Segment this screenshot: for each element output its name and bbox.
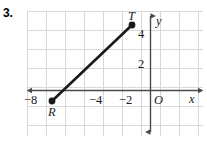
point-R [49, 98, 56, 105]
y-tick-label-2: 2 [138, 58, 144, 71]
y-axis-label: y [156, 15, 162, 28]
x-axis-label: x [189, 93, 195, 106]
x-tick-label-neg2: −2 [119, 94, 132, 107]
figure-container: 3. [0, 0, 207, 148]
origin-label: O [154, 93, 163, 108]
x-tick-label-neg8: −8 [24, 94, 37, 107]
x-tick-label-neg4: −4 [89, 94, 102, 107]
segment-RT [52, 25, 132, 101]
point-label-T: T [128, 10, 135, 23]
y-tick-label-4: 4 [138, 28, 144, 41]
coordinate-plane: −8 −4 −2 2 4 O x y R T [27, 11, 203, 136]
point-label-R: R [48, 106, 56, 119]
problem-number: 3. [3, 6, 13, 20]
